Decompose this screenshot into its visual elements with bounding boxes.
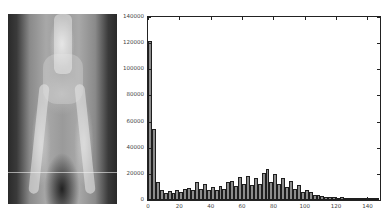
- y-tick-mark: [148, 43, 151, 44]
- x-tick-mark: [305, 17, 306, 20]
- y-tick-mark: [377, 43, 380, 44]
- histogram-plot-area: [147, 16, 381, 201]
- y-tick-mark: [377, 69, 380, 70]
- y-tick-mark: [148, 95, 151, 96]
- y-tick-mark: [148, 148, 151, 149]
- y-tick-mark: [377, 174, 380, 175]
- y-tick-mark: [377, 148, 380, 149]
- y-tick-mark: [377, 122, 380, 123]
- x-tick-mark: [179, 197, 180, 200]
- x-tick-mark: [305, 197, 306, 200]
- femur-left: [28, 84, 49, 194]
- x-tick-label: 100: [295, 203, 315, 209]
- x-tick-label: 20: [169, 203, 189, 209]
- histogram-bars: [148, 17, 380, 200]
- x-tick-mark: [336, 17, 337, 20]
- ruler-line: [8, 172, 117, 173]
- x-tick-mark: [148, 17, 149, 20]
- x-tick-label: 60: [232, 203, 252, 209]
- x-tick-mark: [242, 197, 243, 200]
- x-tick-mark: [336, 197, 337, 200]
- x-tick-mark: [148, 197, 149, 200]
- y-tick-label: 40000: [114, 144, 144, 150]
- y-tick-label: 80000: [114, 91, 144, 97]
- y-tick-mark: [377, 17, 380, 18]
- y-tick-label: 20000: [114, 170, 144, 176]
- x-tick-mark: [211, 17, 212, 20]
- xray-image: [8, 14, 117, 204]
- x-tick-mark: [367, 17, 368, 20]
- y-tick-mark: [148, 200, 151, 201]
- y-tick-label: 0: [114, 196, 144, 202]
- x-tick-mark: [242, 17, 243, 20]
- spine: [54, 14, 72, 74]
- x-tick-label: 120: [326, 203, 346, 209]
- y-tick-mark: [148, 122, 151, 123]
- x-tick-mark: [273, 197, 274, 200]
- x-tick-mark: [367, 197, 368, 200]
- x-tick-label: 80: [263, 203, 283, 209]
- y-tick-mark: [377, 95, 380, 96]
- x-tick-mark: [179, 17, 180, 20]
- y-tick-label: 120000: [114, 39, 144, 45]
- y-tick-mark: [148, 69, 151, 70]
- x-tick-label: 140: [357, 203, 377, 209]
- x-tick-mark: [273, 17, 274, 20]
- y-tick-mark: [148, 174, 151, 175]
- x-tick-label: 40: [201, 203, 221, 209]
- y-tick-mark: [377, 200, 380, 201]
- y-tick-label: 140000: [114, 13, 144, 19]
- x-tick-label: 0: [138, 203, 158, 209]
- y-tick-label: 60000: [114, 118, 144, 124]
- x-tick-mark: [211, 197, 212, 200]
- y-tick-label: 100000: [114, 65, 144, 71]
